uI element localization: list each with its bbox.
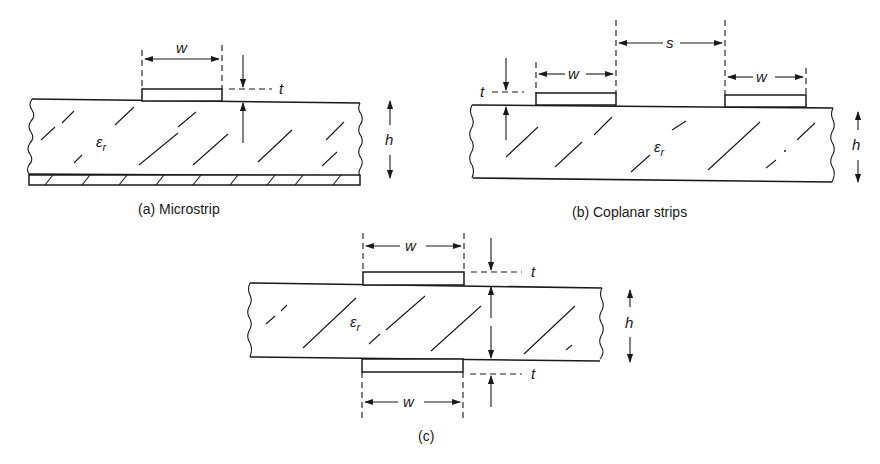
- permittivity-label-b: εr: [654, 138, 666, 158]
- thickness-label-c-top: t: [531, 263, 536, 280]
- substrate-c: εr: [248, 283, 604, 361]
- caption-a: (a) Microstrip: [138, 201, 220, 217]
- caption-b: (b) Coplanar strips: [572, 204, 687, 220]
- height-label-a: h: [385, 131, 393, 148]
- thickness-label-a: t: [279, 80, 284, 97]
- conductor-strip-c-top: [363, 272, 464, 285]
- spacing-label-b: s: [666, 34, 674, 51]
- height-label-b: h: [852, 136, 860, 153]
- substrate-b: εr: [470, 105, 835, 182]
- permittivity-label-a: εr: [96, 133, 108, 153]
- panel-c-broadside-strips: εr w w t t h (c): [248, 233, 634, 444]
- width-label-c-bottom: w: [403, 393, 415, 410]
- panel-b-coplanar-strips: εr s w w t h (b) Coplanar strips: [470, 20, 861, 220]
- transmission-line-figure: εr w t h (a) Microstrip: [0, 0, 880, 464]
- permittivity-label-c: εr: [350, 313, 362, 333]
- conductor-strip-c-bottom: [362, 359, 463, 372]
- width-label-a: w: [176, 39, 188, 56]
- panel-a-microstrip: εr w t h (a) Microstrip: [28, 39, 394, 217]
- caption-c: (c): [418, 428, 434, 444]
- width-label-b-left: w: [568, 65, 580, 82]
- height-label-c: h: [625, 314, 633, 331]
- thickness-label-c-bottom: t: [531, 365, 536, 382]
- conductor-strip-b-left: [536, 93, 616, 105]
- width-label-c-top: w: [405, 237, 417, 254]
- substrate-a: εr: [28, 99, 363, 176]
- ground-plane-a: [29, 175, 360, 185]
- conductor-strip-a: [142, 89, 222, 101]
- width-label-b-right: w: [756, 68, 768, 85]
- conductor-strip-b-right: [725, 95, 806, 107]
- thickness-label-b: t: [480, 83, 485, 100]
